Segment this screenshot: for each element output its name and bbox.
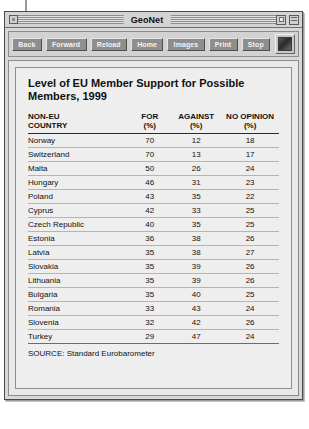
table-row: Turkey294724 <box>28 330 279 344</box>
home-button[interactable]: Home <box>131 38 163 51</box>
cell-value: 43 <box>171 302 221 316</box>
table-row: Latvia353827 <box>28 246 279 260</box>
cell-value: 42 <box>171 316 221 330</box>
table-row: Slovenia324226 <box>28 316 279 330</box>
collapse-box-icon[interactable] <box>289 15 299 25</box>
table-row: Cyprus423325 <box>28 204 279 218</box>
cell-country: Estonia <box>28 232 128 246</box>
forward-button[interactable]: Forward <box>46 38 87 51</box>
cell-value: 42 <box>128 204 171 218</box>
cell-value: 38 <box>171 246 221 260</box>
cell-value: 26 <box>171 162 221 176</box>
cell-value: 35 <box>128 274 171 288</box>
cell-value: 23 <box>221 176 279 190</box>
cell-value: 47 <box>171 330 221 344</box>
cell-country: Bulgaria <box>28 288 128 302</box>
cell-value: 32 <box>128 316 171 330</box>
cell-value: 25 <box>221 204 279 218</box>
table-row: Slovakia353926 <box>28 260 279 274</box>
cell-value: 43 <box>128 190 171 204</box>
cell-value: 25 <box>221 218 279 232</box>
cell-value: 40 <box>128 218 171 232</box>
cell-value: 39 <box>171 260 221 274</box>
cell-country: Cyprus <box>28 204 128 218</box>
cell-country: Latvia <box>28 246 128 260</box>
cell-value: 33 <box>171 204 221 218</box>
table-row: Norway701218 <box>28 134 279 148</box>
cell-country: Poland <box>28 190 128 204</box>
cell-value: 29 <box>128 330 171 344</box>
cell-country: Czech Republic <box>28 218 128 232</box>
cell-country: Slovenia <box>28 316 128 330</box>
cell-value: 38 <box>171 232 221 246</box>
cell-value: 35 <box>171 190 221 204</box>
cell-value: 50 <box>128 162 171 176</box>
cell-value: 40 <box>171 288 221 302</box>
cell-value: 17 <box>221 148 279 162</box>
page-title: Level of EU Member Support for Possible … <box>28 77 279 103</box>
table-header-row: NON-EU COUNTRY FOR (%) AGAINST (%) NO OP… <box>28 112 279 134</box>
cell-country: Malta <box>28 162 128 176</box>
stop-button[interactable]: Stop <box>242 38 270 51</box>
table-row: Hungary463123 <box>28 176 279 190</box>
table-row: Bulgaria354025 <box>28 288 279 302</box>
cell-value: 22 <box>221 190 279 204</box>
table-row: Malta502624 <box>28 162 279 176</box>
column-header-no-opinion: NO OPINION (%) <box>221 112 279 134</box>
table-body: Norway701218Switzerland701317Malta502624… <box>28 134 279 344</box>
cell-value: 31 <box>171 176 221 190</box>
zoom-box-icon[interactable] <box>276 15 286 25</box>
cell-value: 26 <box>221 232 279 246</box>
cell-value: 70 <box>128 134 171 148</box>
cell-value: 46 <box>128 176 171 190</box>
cell-country: Lithuania <box>28 274 128 288</box>
cell-value: 24 <box>221 302 279 316</box>
cell-value: 25 <box>221 288 279 302</box>
reload-button[interactable]: Reload <box>91 38 127 51</box>
column-header-against: AGAINST (%) <box>171 112 221 134</box>
cell-value: 18 <box>221 134 279 148</box>
page-content-area: Level of EU Member Support for Possible … <box>8 60 299 396</box>
window-title: GeoNet <box>124 15 171 25</box>
cell-value: 36 <box>128 232 171 246</box>
titlebar-stripes-left: GeoNet <box>18 14 276 25</box>
print-button[interactable]: Print <box>209 38 238 51</box>
cell-value: 26 <box>221 316 279 330</box>
column-header-for: FOR (%) <box>128 112 171 134</box>
table-row: Romania334324 <box>28 302 279 316</box>
cell-country: Hungary <box>28 176 128 190</box>
table-row: Poland433522 <box>28 190 279 204</box>
cell-value: 12 <box>171 134 221 148</box>
cell-value: 35 <box>128 246 171 260</box>
column-header-country: NON-EU COUNTRY <box>28 112 128 134</box>
cell-value: 26 <box>221 260 279 274</box>
cell-value: 33 <box>128 302 171 316</box>
table-row: Estonia363826 <box>28 232 279 246</box>
screen: GeoNet Back Forward Reload Home Images P… <box>0 0 309 429</box>
cell-value: 27 <box>221 246 279 260</box>
browser-window: GeoNet Back Forward Reload Home Images P… <box>4 11 303 400</box>
cell-value: 24 <box>221 330 279 344</box>
cell-value: 13 <box>171 148 221 162</box>
window-titlebar[interactable]: GeoNet <box>5 12 302 28</box>
close-box-icon[interactable] <box>9 15 18 24</box>
cell-country: Turkey <box>28 330 128 344</box>
images-button[interactable]: Images <box>167 38 204 51</box>
table-row: Czech Republic403525 <box>28 218 279 232</box>
cell-value: 26 <box>221 274 279 288</box>
cell-country: Switzerland <box>28 148 128 162</box>
browser-logo-icon[interactable] <box>275 34 295 54</box>
cell-value: 35 <box>128 288 171 302</box>
source-note: SOURCE: Standard Eurobarometer <box>28 349 279 359</box>
browser-toolbar: Back Forward Reload Home Images Print St… <box>8 31 299 57</box>
cell-country: Romania <box>28 302 128 316</box>
cell-value: 35 <box>128 260 171 274</box>
cell-country: Slovakia <box>28 260 128 274</box>
table-panel: Level of EU Member Support for Possible … <box>15 67 292 389</box>
table-row: Switzerland701317 <box>28 148 279 162</box>
table-row: Lithuania353926 <box>28 274 279 288</box>
cell-value: 24 <box>221 162 279 176</box>
back-button[interactable]: Back <box>12 38 42 51</box>
cell-value: 70 <box>128 148 171 162</box>
cell-value: 35 <box>171 218 221 232</box>
